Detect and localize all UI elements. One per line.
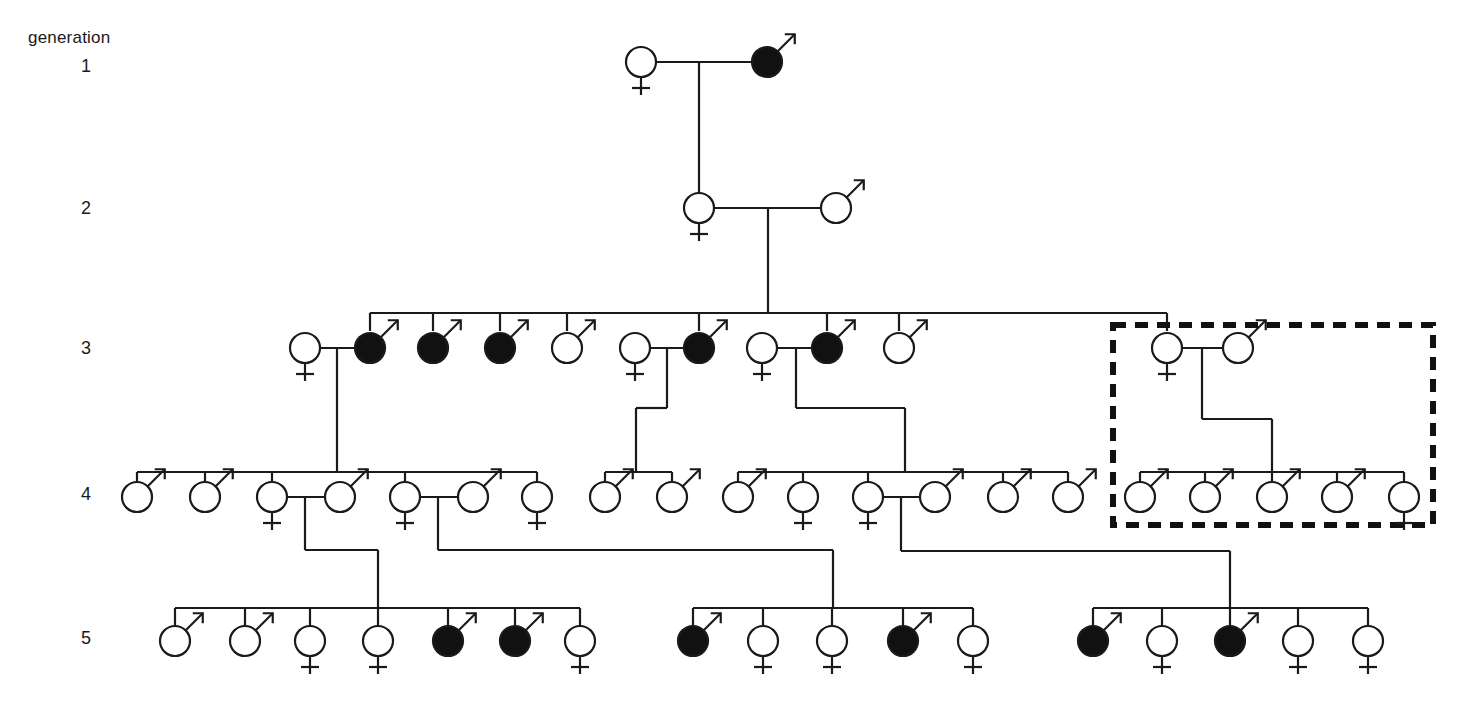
unaffected-symbol-circle[interactable] (747, 333, 777, 363)
individual-V-12[interactable] (958, 626, 988, 674)
unaffected-symbol-circle[interactable] (684, 193, 714, 223)
individual-V-16[interactable] (1283, 626, 1313, 674)
individual-III-6[interactable] (812, 320, 855, 363)
individual-III-4[interactable] (552, 320, 595, 363)
individual-IV-4[interactable] (390, 482, 420, 530)
individual-IV-6[interactable] (590, 469, 633, 512)
individual-III-7[interactable] (884, 320, 927, 363)
individual-II-2[interactable] (821, 180, 864, 223)
male-arrow-shaft (381, 320, 398, 337)
individual-IV-15[interactable] (1257, 469, 1300, 512)
individual-V-14[interactable] (1147, 626, 1177, 674)
individual-IV-1[interactable] (122, 469, 165, 512)
individual-III-1[interactable] (355, 320, 398, 363)
unaffected-symbol-circle[interactable] (817, 626, 847, 656)
individual-III-s3[interactable] (747, 333, 777, 381)
male-arrow-icon (256, 613, 273, 630)
unaffected-symbol-circle[interactable] (1353, 626, 1383, 656)
female-cross-icon (632, 77, 650, 95)
female-cross-icon (1289, 656, 1307, 674)
individual-V-10[interactable] (817, 626, 847, 674)
individual-V-8[interactable] (678, 613, 721, 656)
unaffected-symbol-circle[interactable] (620, 333, 650, 363)
individual-V-11[interactable] (888, 613, 931, 656)
individual-III-s2[interactable] (620, 333, 650, 381)
unaffected-symbol-circle[interactable] (1152, 333, 1182, 363)
unaffected-symbol-circle[interactable] (522, 482, 552, 512)
individual-IV-14[interactable] (1190, 469, 1233, 512)
individual-IV-2[interactable] (190, 469, 233, 512)
male-arrow-shaft (838, 320, 855, 337)
male-arrow-icon (914, 613, 931, 630)
female-cross-icon (296, 363, 314, 381)
individual-IV-5[interactable] (522, 482, 552, 530)
individual-I-2[interactable] (752, 34, 795, 77)
individual-IV-8[interactable] (723, 469, 766, 512)
individual-IV-13[interactable] (1125, 469, 1168, 512)
male-arrow-shaft (511, 320, 528, 337)
individual-V-9[interactable] (748, 626, 778, 674)
individual-IV-s3[interactable] (920, 469, 963, 512)
individual-V-17[interactable] (1353, 626, 1383, 674)
male-arrow-shaft (778, 34, 795, 51)
unaffected-symbol-circle[interactable] (626, 47, 656, 77)
male-arrow-icon (704, 613, 721, 630)
female-cross-icon (753, 363, 771, 381)
male-arrow-shaft (1079, 469, 1096, 486)
male-arrow-shaft (910, 320, 927, 337)
unaffected-symbol-circle[interactable] (257, 482, 287, 512)
female-cross-icon (690, 223, 708, 241)
individual-V-6[interactable] (500, 613, 543, 656)
male-arrow-icon (683, 469, 700, 486)
individual-IV-10[interactable] (853, 482, 883, 530)
individual-IV-7[interactable] (657, 469, 700, 512)
individual-III-s1[interactable] (290, 333, 320, 381)
male-arrow-shaft (526, 613, 543, 630)
male-arrow-shaft (1241, 613, 1258, 630)
female-cross-icon (571, 656, 589, 674)
female-cross-icon (369, 656, 387, 674)
individual-V-4[interactable] (363, 626, 393, 674)
male-arrow-icon (1241, 613, 1258, 630)
unaffected-symbol-circle[interactable] (958, 626, 988, 656)
unaffected-symbol-circle[interactable] (565, 626, 595, 656)
male-arrow-shaft (1104, 613, 1121, 630)
individual-IV-s1[interactable] (325, 469, 368, 512)
individual-IV-9[interactable] (788, 482, 818, 530)
individual-V-13[interactable] (1078, 613, 1121, 656)
unaffected-symbol-circle[interactable] (1283, 626, 1313, 656)
unaffected-symbol-circle[interactable] (788, 482, 818, 512)
individual-V-3[interactable] (295, 626, 325, 674)
male-arrow-shaft (847, 180, 864, 197)
individual-V-5[interactable] (433, 613, 476, 656)
unaffected-symbol-circle[interactable] (390, 482, 420, 512)
individual-I-1[interactable] (626, 47, 656, 95)
individual-V-1[interactable] (160, 613, 203, 656)
pedigree-graphic (0, 0, 1471, 707)
unaffected-symbol-circle[interactable] (295, 626, 325, 656)
unaffected-symbol-circle[interactable] (290, 333, 320, 363)
unaffected-symbol-circle[interactable] (1147, 626, 1177, 656)
individual-IV-3[interactable] (257, 482, 287, 530)
individual-V-7[interactable] (565, 626, 595, 674)
individual-III-8[interactable] (1152, 333, 1182, 381)
individual-symbols-layer (122, 34, 1419, 674)
individual-III-5[interactable] (684, 320, 727, 363)
individual-IV-12[interactable] (1053, 469, 1096, 512)
unaffected-symbol-circle[interactable] (748, 626, 778, 656)
individual-III-2[interactable] (418, 320, 461, 363)
individual-V-15[interactable] (1215, 613, 1258, 656)
individual-V-2[interactable] (230, 613, 273, 656)
unaffected-symbol-circle[interactable] (363, 626, 393, 656)
individual-IV-s2[interactable] (458, 469, 501, 512)
individual-II-1[interactable] (684, 193, 714, 241)
female-cross-icon (396, 512, 414, 530)
individual-IV-11[interactable] (988, 469, 1031, 512)
male-arrow-shaft (710, 320, 727, 337)
female-cross-icon (528, 512, 546, 530)
individual-III-3[interactable] (485, 320, 528, 363)
unaffected-symbol-circle[interactable] (1389, 482, 1419, 512)
individual-IV-16[interactable] (1322, 469, 1365, 512)
male-arrow-icon (1079, 469, 1096, 486)
unaffected-symbol-circle[interactable] (853, 482, 883, 512)
